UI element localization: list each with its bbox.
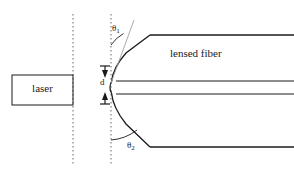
fiber-upper-taper bbox=[112, 35, 151, 82]
theta2-label: θ2 bbox=[127, 140, 135, 152]
lensed-fiber-label: lensed fiber bbox=[170, 47, 222, 59]
theta1-subscript: 1 bbox=[116, 27, 120, 35]
theta2-subscript: 2 bbox=[131, 144, 135, 152]
theta1-label: θ1 bbox=[112, 23, 120, 35]
d-lower-arrowhead bbox=[102, 92, 108, 100]
distance-d-label: d bbox=[100, 77, 105, 87]
theta1-arc bbox=[111, 34, 124, 46]
laser-label: laser bbox=[12, 82, 73, 94]
figure-canvas: laser lensed fiber d θ1 θ2 bbox=[0, 0, 294, 176]
